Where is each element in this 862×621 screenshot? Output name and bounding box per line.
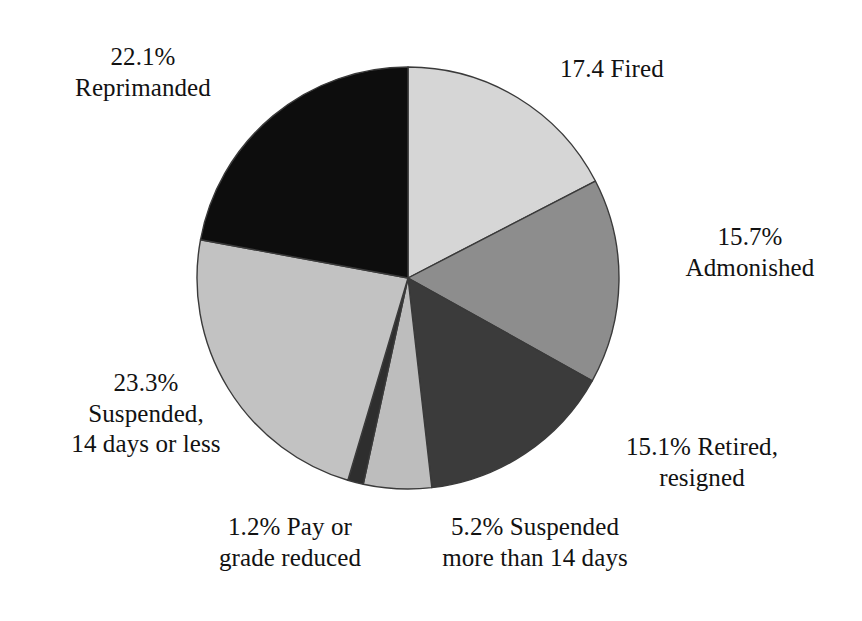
pie-label-suspended-more-than-14-days: 5.2% Suspended more than 14 days — [410, 512, 660, 573]
pie-label-pay-or-grade-reduced: 1.2% Pay or grade reduced — [175, 512, 405, 573]
pie-label-reprimanded: 22.1% Reprimanded — [28, 42, 258, 103]
pie-label-retired-resigned: 15.1% Retired, resigned — [582, 432, 822, 493]
pie-label-admonished: 15.7% Admonished — [650, 222, 850, 283]
pie-label-fired: 17.4 Fired — [560, 54, 770, 85]
pie-chart: 22.1% Reprimanded 17.4 Fired 15.7% Admon… — [0, 0, 862, 621]
pie-label-suspended-14-days-or-less: 23.3% Suspended, 14 days or less — [28, 368, 264, 460]
